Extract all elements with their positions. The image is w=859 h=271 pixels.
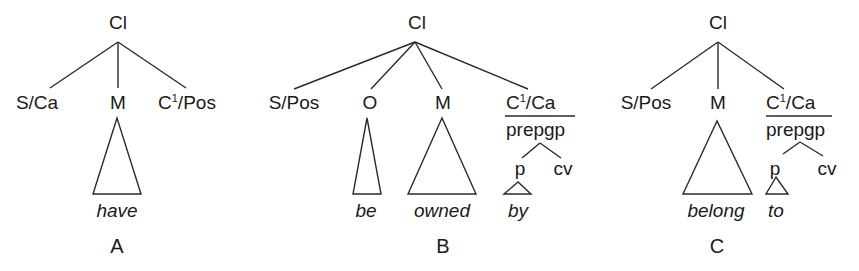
- tree-c-main-triangle: [683, 121, 752, 194]
- tree-a-node-subject: S/Ca: [16, 92, 59, 113]
- tree-c-node-complement: C1/Ca: [766, 92, 816, 113]
- tree-b-word-owned: owned: [414, 200, 471, 221]
- tree-b-branch-main: [415, 42, 442, 89]
- tree-b-branch-p: [522, 143, 540, 158]
- tree-b-word-be: be: [355, 200, 376, 221]
- tree-b-node-p: p: [515, 158, 526, 179]
- tree-b: Cl S/Pos O M C1/Ca prepgp p cv be owned …: [269, 12, 575, 257]
- tree-c-node-cv: cv: [818, 158, 838, 179]
- tree-c-branch-subject: [651, 42, 718, 89]
- tree-a-caption: A: [110, 235, 124, 257]
- tree-b-node-cv: cv: [554, 158, 574, 179]
- tree-c: Cl S/Pos M C1/Ca prepgp p cv belong to C: [621, 12, 837, 257]
- tree-c-branch-complement: [718, 42, 784, 89]
- tree-b-main-triangle: [408, 118, 476, 194]
- tree-c-node-main: M: [710, 92, 726, 113]
- tree-c-word-belong: belong: [687, 200, 744, 221]
- tree-c-p-triangle: [766, 177, 788, 194]
- tree-b-node-object: O: [363, 92, 378, 113]
- tree-b-branch-subject: [294, 42, 415, 89]
- tree-a-root-label: Cl: [109, 12, 127, 33]
- tree-a-main-triangle: [93, 118, 141, 194]
- tree-a-word-have: have: [96, 200, 137, 221]
- tree-b-phrase-label: prepgp: [506, 119, 565, 140]
- tree-b-object-triangle: [353, 118, 381, 194]
- tree-b-branch-complement: [415, 42, 528, 89]
- tree-b-p-triangle: [504, 182, 531, 194]
- tree-b-node-complement: C1/Ca: [506, 92, 556, 113]
- tree-b-caption: B: [436, 235, 449, 257]
- tree-c-phrase-label: prepgp: [766, 119, 825, 140]
- tree-diagrams: Cl S/Ca M C1/Pos have A Cl S/Pos O M C1/…: [0, 0, 859, 271]
- tree-c-branch-p: [783, 142, 800, 154]
- tree-c-branch-cv: [800, 142, 823, 156]
- tree-a-branch-subject: [50, 42, 118, 88]
- tree-c-root-label: Cl: [709, 12, 727, 33]
- tree-b-branch-object: [371, 42, 415, 89]
- tree-a-branch-complement: [118, 42, 186, 88]
- tree-a-node-main: M: [110, 92, 126, 113]
- tree-a: Cl S/Ca M C1/Pos have A: [16, 12, 216, 257]
- tree-c-node-p: p: [770, 158, 781, 179]
- tree-a-node-complement: C1/Pos: [158, 92, 216, 113]
- tree-b-node-main: M: [435, 92, 451, 113]
- tree-c-node-subject: S/Pos: [621, 92, 672, 113]
- tree-b-branch-cv: [540, 143, 561, 158]
- tree-b-node-subject: S/Pos: [269, 92, 320, 113]
- tree-b-root-label: Cl: [408, 12, 426, 33]
- tree-c-word-to: to: [768, 200, 784, 221]
- tree-c-caption: C: [710, 235, 724, 257]
- tree-b-word-by: by: [508, 200, 530, 221]
